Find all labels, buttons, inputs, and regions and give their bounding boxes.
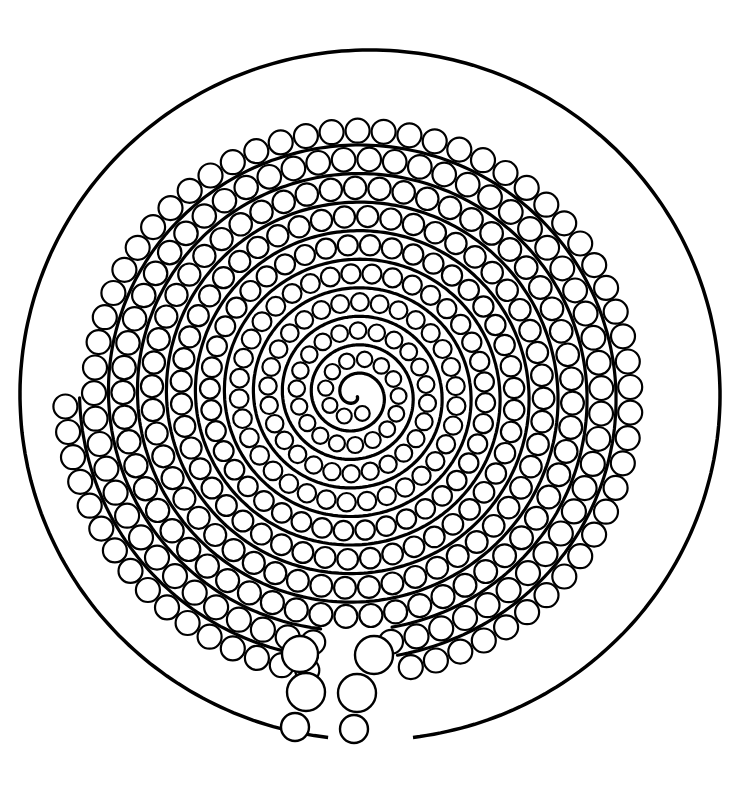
bottom-opening-circles [281,636,393,743]
spiral-circle-drawing [0,0,739,802]
